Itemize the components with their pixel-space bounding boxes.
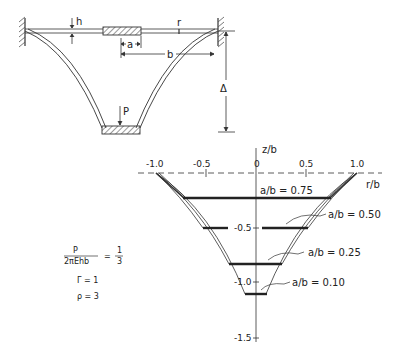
label-a: a — [127, 39, 133, 50]
deflection-dimension — [218, 31, 235, 132]
r-axis-label: r/b — [366, 179, 380, 190]
label-b: b — [167, 49, 173, 60]
load-numerator: P — [73, 246, 78, 255]
undeformed-plate — [25, 27, 218, 35]
label-P: P — [123, 106, 129, 117]
schematic: h r a b — [19, 16, 235, 134]
svg-text:1.0: 1.0 — [350, 159, 365, 169]
parameter-block: P 2πEhb = 1 3 Γ = 1 ρ = 3 — [64, 246, 123, 301]
r-ticks: -1.0 -0.5 0 0.5 1.0 — [146, 159, 365, 177]
curve-label-075: a/b = 0.75 — [260, 185, 313, 196]
load-equals: = — [104, 252, 111, 261]
svg-text:-1.5: -1.5 — [234, 333, 252, 343]
rho-param: ρ = 3 — [77, 292, 99, 301]
deflection-chart: z/b r/b -1.0 -0.5 0 0.5 1.0 -0.5 -1.0 -1… — [64, 144, 382, 343]
rigid-center-top — [103, 27, 141, 35]
svg-text:0.5: 0.5 — [299, 159, 313, 169]
curve-label-050: a/b = 0.50 — [328, 209, 381, 220]
svg-text:0: 0 — [254, 159, 260, 169]
label-delta: Δ — [220, 83, 227, 94]
gamma-param: Γ = 1 — [77, 276, 98, 285]
diagram-canvas: h r a b — [0, 0, 406, 362]
profile-curves — [156, 173, 357, 294]
left-wall-support — [19, 17, 25, 47]
load-arrow — [118, 106, 122, 125]
z-axis-label: z/b — [262, 144, 277, 155]
rigid-center-deformed — [102, 126, 140, 134]
svg-text:-1.0: -1.0 — [146, 159, 164, 169]
svg-text:-0.5: -0.5 — [234, 223, 252, 233]
leader-025 — [268, 252, 304, 260]
load-value-numerator: 1 — [117, 246, 122, 255]
load-value-denominator: 3 — [117, 257, 122, 266]
load-denominator: 2πEhb — [64, 257, 89, 266]
leader-010 — [261, 282, 290, 290]
label-h: h — [76, 16, 82, 27]
leader-050 — [286, 214, 326, 224]
curve-label-010: a/b = 0.10 — [292, 277, 345, 288]
thickness-dimension — [70, 18, 74, 44]
svg-text:-0.5: -0.5 — [193, 159, 211, 169]
curve-label-025: a/b = 0.25 — [308, 247, 361, 258]
z-ticks: -0.5 -1.0 -1.5 — [234, 223, 259, 343]
right-wall-support — [218, 17, 224, 47]
svg-text:-1.0: -1.0 — [234, 277, 252, 287]
label-r: r — [177, 17, 182, 28]
